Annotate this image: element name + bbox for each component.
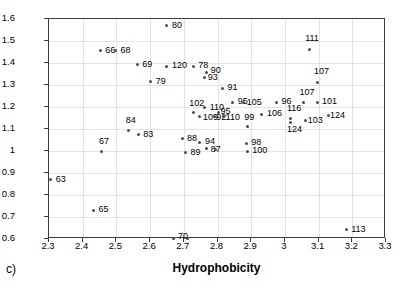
data-point [165, 24, 168, 27]
data-point [221, 87, 224, 90]
y-tick-label: 1.1 [0, 123, 15, 133]
data-point-label: 89 [190, 148, 200, 157]
x-tick-label: 3.3 [365, 241, 404, 251]
data-point [308, 48, 311, 51]
data-point [99, 49, 102, 52]
gridline-vertical [218, 19, 219, 237]
data-point-label: 106 [267, 109, 282, 118]
y-tick-mark [44, 150, 48, 151]
data-point-label: 107 [299, 88, 314, 97]
gridline-horizontal [49, 85, 384, 86]
y-tick-mark [44, 216, 48, 217]
gridline-vertical [116, 19, 117, 237]
data-point-label: 83 [143, 130, 153, 139]
data-point-label: 79 [156, 77, 166, 86]
data-point [192, 65, 195, 68]
data-point-label: 88 [187, 134, 197, 143]
y-tick-mark [44, 106, 48, 107]
data-point [231, 101, 234, 104]
y-tick-label: 0.7 [0, 211, 15, 221]
data-point [198, 115, 201, 118]
y-tick-mark [44, 128, 48, 129]
y-tick-label: 1.6 [0, 13, 15, 23]
y-tick-label: 1.5 [0, 35, 15, 45]
gridline-horizontal [49, 173, 384, 174]
data-point [184, 151, 187, 154]
data-point-label: 105 [247, 98, 262, 107]
gridline-vertical [319, 19, 320, 237]
data-point-label: 68 [120, 46, 130, 55]
data-point [205, 147, 208, 150]
data-point-label: 91 [228, 83, 238, 92]
y-tick-label: 1 [0, 145, 15, 155]
data-point [203, 106, 206, 109]
gridline-vertical [150, 19, 151, 237]
data-point [245, 142, 248, 145]
data-point-label: 103 [308, 116, 323, 125]
gridline-horizontal [49, 195, 384, 196]
data-point-label: 78 [198, 61, 208, 70]
gridline-horizontal [49, 41, 384, 42]
gridline-vertical [184, 19, 185, 237]
data-point [136, 63, 139, 66]
y-tick-label: 0.8 [0, 189, 15, 199]
data-point-label: 69 [142, 60, 152, 69]
y-tick-mark [44, 194, 48, 195]
y-tick-label: 1.4 [0, 57, 15, 67]
data-point-label: 110 [226, 113, 240, 122]
y-tick-mark [44, 40, 48, 41]
data-point-label: 111 [305, 34, 319, 43]
gridline-horizontal [49, 217, 384, 218]
gridline-vertical [251, 19, 252, 237]
data-point [198, 141, 201, 144]
data-point-label: 80 [172, 21, 182, 30]
data-point [127, 129, 130, 132]
data-point [172, 237, 175, 240]
data-point-label: 107 [314, 67, 329, 76]
y-tick-mark [44, 172, 48, 173]
x-axis-title: Hydrophobicity [48, 261, 385, 275]
data-point [289, 117, 292, 120]
y-tick-mark [44, 18, 48, 19]
data-point-label: 101 [322, 97, 337, 106]
y-tick-label: 1.3 [0, 79, 15, 89]
data-point [246, 125, 249, 128]
data-point [192, 111, 195, 114]
data-point [203, 76, 206, 79]
data-point [92, 209, 95, 212]
data-point-label: 113 [351, 225, 365, 234]
y-tick-mark [44, 238, 48, 239]
data-point-label: 124 [330, 111, 345, 120]
data-point [246, 150, 249, 153]
data-point-label: 102 [189, 99, 204, 108]
panel-caption: c) [6, 262, 16, 276]
data-point [275, 101, 278, 104]
data-point [165, 65, 168, 68]
data-point-label: 93 [208, 73, 218, 82]
gridline-vertical [352, 19, 353, 237]
gridline-horizontal [49, 63, 384, 64]
data-point-label: 100 [252, 146, 267, 155]
gridline-vertical [285, 19, 286, 237]
data-point [302, 101, 305, 104]
data-point [137, 133, 140, 136]
y-tick-label: 0.6 [0, 233, 15, 243]
data-point-label: 116 [287, 104, 301, 113]
y-tick-mark [44, 62, 48, 63]
data-point-label: 120 [172, 61, 187, 70]
data-point-label: 63 [56, 175, 66, 184]
gridline-vertical [83, 19, 84, 237]
figure-panel: Silanol Activity at pH 7 636566686769798… [0, 0, 404, 287]
data-point-label: 84 [126, 116, 136, 125]
data-point-label: 99 [244, 113, 254, 122]
plot-area: 6365666867697984838012078708889102109909… [48, 18, 385, 238]
data-point-label: 67 [99, 137, 109, 146]
data-point [260, 113, 263, 116]
gridline-horizontal [49, 129, 384, 130]
data-point [345, 228, 348, 231]
data-point-label: 65 [98, 205, 108, 214]
data-point [149, 80, 152, 83]
y-tick-label: 0.9 [0, 167, 15, 177]
data-point-label: 124 [287, 125, 302, 134]
y-tick-label: 1.2 [0, 101, 15, 111]
